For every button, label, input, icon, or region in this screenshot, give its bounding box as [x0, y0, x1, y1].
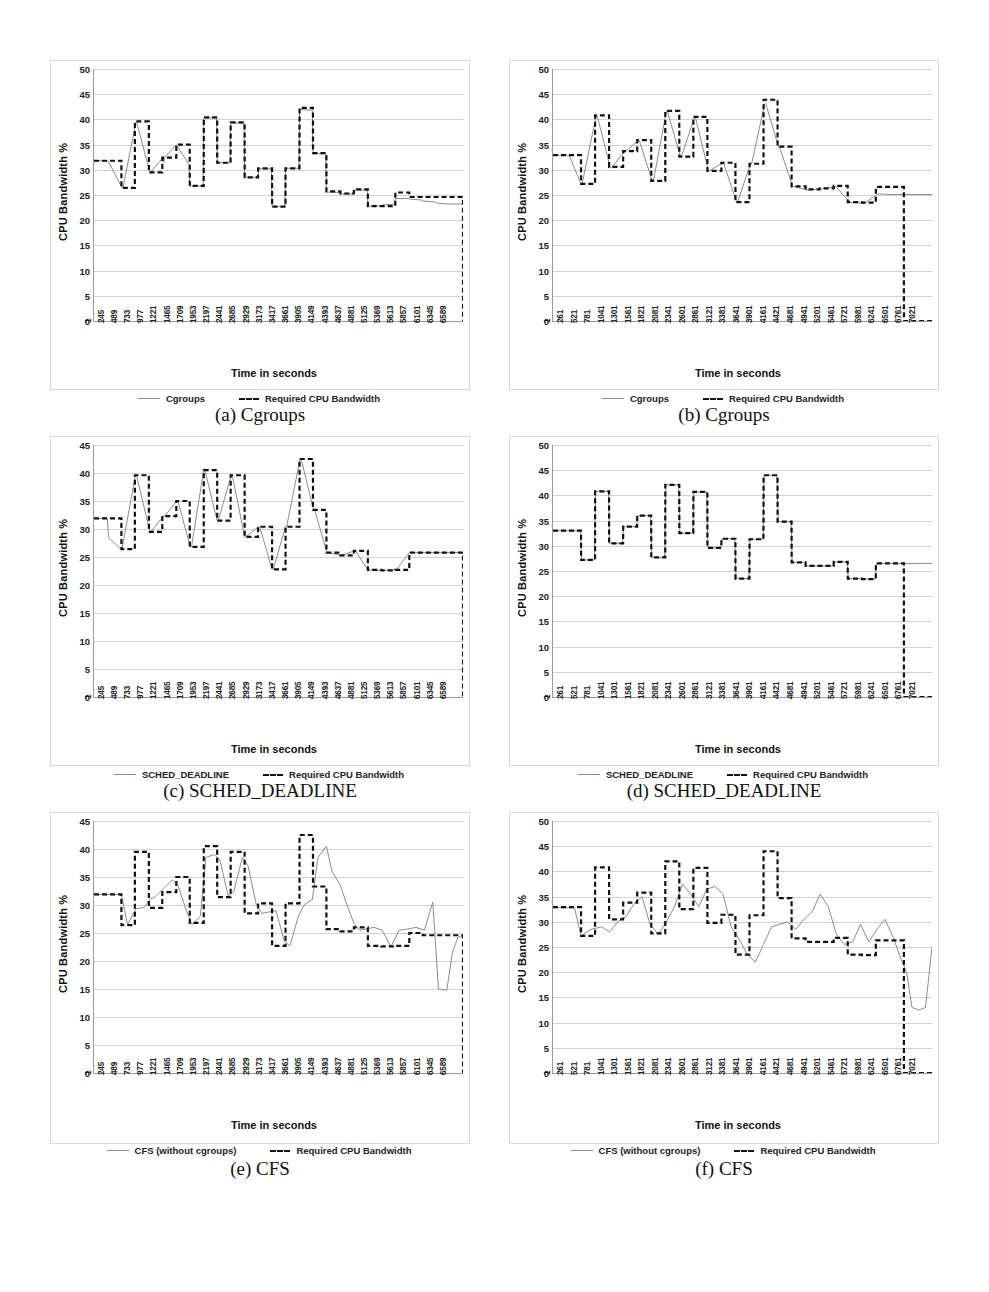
x-tick-label: 781 — [583, 686, 592, 699]
x-tick-label: 4941 — [799, 1058, 808, 1075]
x-tick-label: 781 — [583, 1062, 592, 1075]
x-tick-label: 7021 — [907, 682, 916, 699]
x-tick-label: 1 — [83, 319, 92, 323]
series-line-measured — [94, 459, 463, 570]
x-tick-label: 3381 — [718, 306, 727, 323]
legend-entry-required: Required CPU Bandwidth — [727, 769, 868, 780]
legend-entry-required: Required CPU Bandwidth — [239, 393, 380, 404]
x-tick-label: 3905 — [294, 306, 303, 323]
x-tick-label: 5369 — [373, 306, 382, 323]
y-tick-label: 30 — [538, 540, 549, 551]
legend-label-measured: CFS (without cgroups) — [135, 1145, 237, 1156]
x-tick-label: 4681 — [786, 306, 795, 323]
y-tick-label: 50 — [538, 440, 549, 451]
x-axis-label: Time in seconds — [85, 743, 463, 755]
x-tick-label: 6501 — [880, 1058, 889, 1075]
x-tick-label: 261 — [556, 686, 565, 699]
x-tick-label: 3173 — [254, 1058, 263, 1075]
x-tick-label: 5721 — [840, 682, 849, 699]
x-axis-label: Time in seconds — [544, 743, 932, 755]
legend-entry-measured: SCHED_DEADLINE — [578, 769, 693, 780]
x-tick-label: 2081 — [650, 306, 659, 323]
x-tick-label: 3905 — [294, 1058, 303, 1075]
x-tick-label: 2441 — [215, 1058, 224, 1075]
figure-cpu-bandwidth-comparison: CPU Bandwidth % 05101520253035404550 124… — [0, 0, 989, 1292]
x-tick-label: 977 — [136, 686, 145, 699]
plot-area-c — [93, 445, 463, 698]
y-tick-label: 35 — [79, 872, 90, 883]
x-tick-label: 245 — [96, 1062, 105, 1075]
legend-label-measured: Cgroups — [166, 393, 205, 404]
series-line-required — [94, 835, 463, 1073]
subfigure-caption-f: (f) CFS — [509, 1158, 939, 1180]
x-tick-label: 3121 — [704, 1058, 713, 1075]
x-tick-label: 5125 — [359, 306, 368, 323]
x-tick-label: 1953 — [188, 306, 197, 323]
y-tick-label: 15 — [538, 240, 549, 251]
y-tick-label: 30 — [79, 164, 90, 175]
series-line-measured — [94, 846, 463, 990]
y-tick-label: 5 — [85, 664, 90, 675]
series-line-required — [553, 100, 932, 321]
x-tick-label: 4637 — [333, 1058, 342, 1075]
x-tick-label: 1709 — [175, 682, 184, 699]
y-tick-label: 20 — [538, 215, 549, 226]
subfigure-b: CPU Bandwidth % 05101520253035404550 126… — [509, 60, 939, 426]
x-tick-label: 5201 — [813, 306, 822, 323]
y-tick-label: 15 — [79, 240, 90, 251]
x-tick-label: 977 — [136, 1062, 145, 1075]
legend-entry-measured: Cgroups — [602, 393, 669, 404]
x-tick-label: 5721 — [840, 1058, 849, 1075]
x-tick-label: 6761 — [894, 1058, 903, 1075]
y-tick-label: 25 — [79, 552, 90, 563]
x-tick-label: 1 — [83, 1071, 92, 1075]
x-tick-label: 1041 — [596, 1058, 605, 1075]
x-tick-label: 1221 — [149, 306, 158, 323]
y-axis-ticks: 05101520253035404550 — [530, 445, 552, 697]
y-axis-ticks: 051015202530354045 — [71, 445, 93, 697]
x-tick-label: 5613 — [386, 682, 395, 699]
x-tick-label: 3901 — [745, 306, 754, 323]
y-tick-label: 40 — [538, 114, 549, 125]
x-tick-label: 6501 — [880, 306, 889, 323]
x-tick-label: 2601 — [677, 682, 686, 699]
x-tick-label: 3121 — [704, 682, 713, 699]
x-tick-label: 3905 — [294, 682, 303, 699]
y-tick-label: 5 — [85, 290, 90, 301]
x-tick-label: 5369 — [373, 682, 382, 699]
y-tick-label: 45 — [79, 440, 90, 451]
x-tick-label: 1465 — [162, 682, 171, 699]
y-tick-label: 30 — [79, 524, 90, 535]
chart-panel-f: CPU Bandwidth % 05101520253035404550 126… — [509, 812, 939, 1144]
x-tick-label: 489 — [110, 686, 119, 699]
x-tick-label: 2081 — [650, 682, 659, 699]
x-tick-label: 2341 — [664, 306, 673, 323]
y-tick-label: 15 — [538, 992, 549, 1003]
x-tick-label: 4637 — [333, 306, 342, 323]
y-tick-label: 25 — [79, 928, 90, 939]
y-tick-label: 35 — [538, 139, 549, 150]
y-tick-label: 25 — [79, 190, 90, 201]
x-tick-label: 2601 — [677, 306, 686, 323]
x-tick-label: 4637 — [333, 682, 342, 699]
x-tick-label: 4421 — [772, 682, 781, 699]
y-axis-label: CPU Bandwidth % — [514, 69, 530, 321]
x-tick-label: 1041 — [596, 306, 605, 323]
x-tick-label: 3417 — [267, 682, 276, 699]
legend-d: SCHED_DEADLINE Required CPU Bandwidth — [514, 769, 932, 780]
x-tick-label: 2197 — [202, 306, 211, 323]
subfigure-e: CPU Bandwidth % 051015202530354045 12454… — [50, 812, 470, 1180]
series-line-required — [553, 475, 932, 697]
x-tick-label: 3661 — [281, 1058, 290, 1075]
legend-label-measured: CFS (without cgroups) — [599, 1145, 701, 1156]
x-tick-label: 3381 — [718, 682, 727, 699]
x-tick-label: 1 — [542, 695, 551, 699]
x-tick-label: 245 — [96, 310, 105, 323]
legend-line-dashed-icon — [734, 1150, 754, 1152]
x-tick-label: 3641 — [731, 1058, 740, 1075]
x-tick-label: 4149 — [307, 306, 316, 323]
x-tick-label: 6241 — [867, 1058, 876, 1075]
x-tick-label: 2341 — [664, 682, 673, 699]
y-tick-label: 35 — [538, 515, 549, 526]
plot-area-b — [552, 69, 932, 322]
